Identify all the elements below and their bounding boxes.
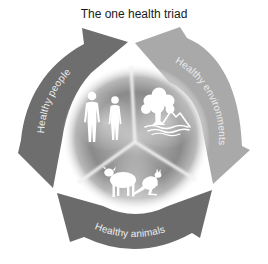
central-hub — [62, 64, 210, 212]
one-health-triad-diagram: The one health triad Healthy people Heal… — [0, 0, 268, 264]
diagram-title: The one health triad — [81, 7, 188, 21]
